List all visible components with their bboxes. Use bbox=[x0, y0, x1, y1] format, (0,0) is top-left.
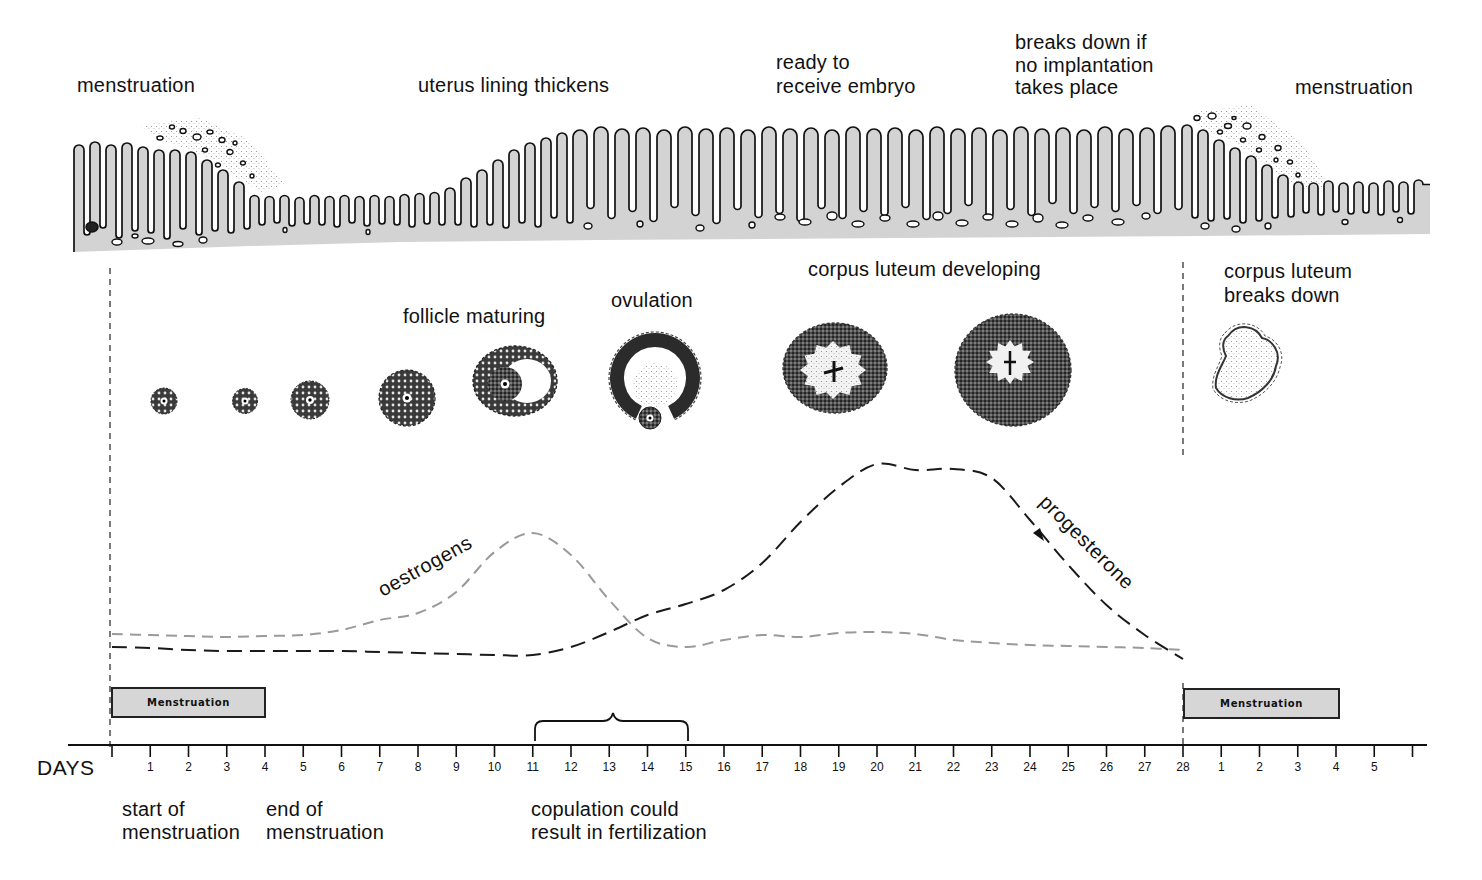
label-line: copulation could bbox=[531, 798, 707, 821]
tick-label: 4 bbox=[1321, 760, 1351, 774]
tick-label: 5 bbox=[288, 760, 318, 774]
days-axis-ticks bbox=[112, 745, 1413, 757]
follicle-stage-1 bbox=[151, 388, 177, 414]
follicle-stage-4 bbox=[379, 370, 435, 426]
label-menstruation-next: menstruation bbox=[1295, 76, 1413, 99]
tick-label: 1 bbox=[135, 760, 165, 774]
ovulating-follicle bbox=[609, 332, 701, 429]
oocyte-nucleus bbox=[503, 382, 507, 386]
tick-label: 3 bbox=[212, 760, 242, 774]
tick-label: 25 bbox=[1053, 760, 1083, 774]
tick-label: 9 bbox=[441, 760, 471, 774]
tick-label: 24 bbox=[1015, 760, 1045, 774]
label-breaks-down: breaks down if no implantation takes pla… bbox=[1015, 31, 1154, 99]
label-line: corpus luteum bbox=[1224, 259, 1352, 283]
oocyte-nucleus bbox=[405, 396, 409, 400]
label-line: end of bbox=[266, 798, 384, 821]
tick-label: 7 bbox=[365, 760, 395, 774]
label-line: menstruation bbox=[266, 821, 384, 844]
label-corpus-luteum-developing: corpus luteum developing bbox=[808, 258, 1041, 281]
corpus-albicans-outline bbox=[1216, 327, 1278, 399]
tick-label: 4 bbox=[250, 760, 280, 774]
label-line: receive embryo bbox=[776, 74, 916, 98]
menstruation-bar-next: Menstruation bbox=[1183, 688, 1340, 719]
tick-label: 19 bbox=[824, 760, 854, 774]
tick-label: 21 bbox=[900, 760, 930, 774]
follicle-stage-5-maturing bbox=[473, 346, 557, 416]
follicle-stage-2 bbox=[233, 389, 258, 414]
tick-label: 2 bbox=[174, 760, 204, 774]
fertile-window-brace bbox=[535, 713, 688, 741]
tick-label: 8 bbox=[403, 760, 433, 774]
tick-label: 27 bbox=[1130, 760, 1160, 774]
tick-label: 17 bbox=[747, 760, 777, 774]
label-line: menstruation bbox=[122, 821, 240, 844]
tick-label: 26 bbox=[1092, 760, 1122, 774]
label-line: result in fertilization bbox=[531, 821, 707, 844]
tick-label: 18 bbox=[786, 760, 816, 774]
tick-label: 16 bbox=[709, 760, 739, 774]
label-ovulation: ovulation bbox=[611, 289, 693, 312]
tick-label: 23 bbox=[977, 760, 1007, 774]
label-line: breaks down if bbox=[1015, 31, 1154, 54]
tick-label: 20 bbox=[862, 760, 892, 774]
label-ready-to-receive-embryo: ready to receive embryo bbox=[776, 50, 916, 98]
corpus-luteum-mature bbox=[955, 314, 1071, 426]
corpus-luteum-degenerating bbox=[1213, 324, 1282, 403]
label-line: ready to bbox=[776, 50, 916, 74]
tick-label: 10 bbox=[480, 760, 510, 774]
days-axis-label: DAYS bbox=[37, 757, 95, 778]
menstruation-bar-current: Menstruation bbox=[111, 687, 266, 718]
tick-label: 12 bbox=[556, 760, 586, 774]
label-line: breaks down bbox=[1224, 283, 1352, 307]
tick-label: 2 bbox=[1245, 760, 1275, 774]
tick-label: 5 bbox=[1359, 760, 1389, 774]
tick-label: 6 bbox=[327, 760, 357, 774]
tick-label: 3 bbox=[1283, 760, 1313, 774]
tick-label: 28 bbox=[1168, 760, 1198, 774]
tick-label: 13 bbox=[594, 760, 624, 774]
follicle-stage-3 bbox=[291, 381, 329, 419]
ovum-nucleus bbox=[649, 417, 652, 420]
oocyte-nucleus bbox=[244, 400, 247, 403]
label-menstruation-start: menstruation bbox=[77, 74, 195, 97]
tick-label: 11 bbox=[518, 760, 548, 774]
corpus-luteum-early bbox=[783, 323, 887, 413]
annotation-end-of-menstruation: end of menstruation bbox=[266, 798, 384, 844]
oocyte-nucleus bbox=[163, 400, 166, 403]
tick-label: 14 bbox=[633, 760, 663, 774]
oestrogen-curve bbox=[112, 533, 1183, 650]
label-lining-thickens: uterus lining thickens bbox=[418, 74, 609, 97]
label-follicle-maturing: follicle maturing bbox=[403, 305, 545, 328]
tick-label: 15 bbox=[671, 760, 701, 774]
annotation-fertile-window: copulation could result in fertilization bbox=[531, 798, 707, 844]
tick-label: 22 bbox=[939, 760, 969, 774]
ruptured-cavity bbox=[633, 363, 677, 407]
dark-gland-fragment bbox=[86, 222, 98, 232]
oocyte-nucleus bbox=[308, 398, 311, 401]
label-corpus-luteum-breaks-down: corpus luteum breaks down bbox=[1224, 259, 1352, 307]
progesterone-curve bbox=[112, 463, 1183, 659]
label-line: start of bbox=[122, 798, 240, 821]
label-line: no implantation bbox=[1015, 54, 1154, 77]
label-line: takes place bbox=[1015, 76, 1154, 99]
menstrual-cycle-diagram bbox=[0, 0, 1482, 880]
annotation-start-of-menstruation: start of menstruation bbox=[122, 798, 240, 844]
tick-label: 1 bbox=[1206, 760, 1236, 774]
